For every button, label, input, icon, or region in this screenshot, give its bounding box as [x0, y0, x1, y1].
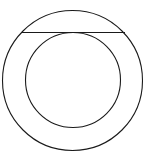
concentric-circles-diagram [0, 0, 144, 157]
inner-circle [26, 33, 121, 128]
outer-circle [3, 11, 143, 151]
